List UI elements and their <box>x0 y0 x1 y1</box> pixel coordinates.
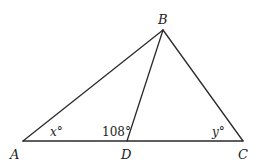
angle-label-y: y° <box>211 125 225 139</box>
point-label-c: C <box>238 147 248 162</box>
segment-ab <box>23 30 163 141</box>
point-label-b: B <box>157 12 168 27</box>
angle-label-x: x° <box>50 125 63 139</box>
angle-label-108: 108° <box>102 125 131 139</box>
triangle-diagram: B A D C x° 108° y° <box>0 0 262 168</box>
segment-bd <box>127 30 163 141</box>
point-label-d: D <box>120 147 132 162</box>
point-label-a: A <box>9 147 19 162</box>
segment-bc <box>163 30 243 141</box>
